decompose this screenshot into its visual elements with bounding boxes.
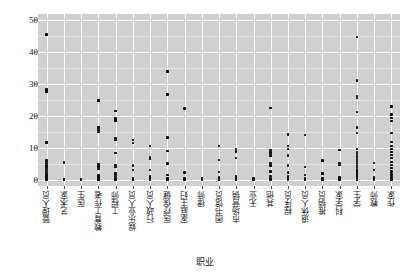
x-axis-tick-mark (357, 186, 358, 189)
data-point (373, 178, 376, 181)
gridline-vertical (254, 14, 255, 186)
x-axis-tick-mark (219, 186, 220, 189)
x-axis-tick-mark (202, 186, 203, 189)
x-axis-tick-label-text: 推销员 (319, 191, 327, 215)
y-axis-tick-label: 20 (4, 111, 38, 120)
x-axis-tick-label: 娱乐业人员 (128, 191, 138, 257)
data-point (338, 164, 341, 167)
data-point (390, 178, 393, 181)
x-axis-tick-mark (254, 186, 255, 189)
gridline-vertical (167, 14, 168, 186)
data-point (218, 178, 221, 181)
x-axis-tick-label: 作家 (386, 191, 396, 257)
x-axis-tick-mark (98, 186, 99, 189)
x-axis-tick-label-text: 律师 (198, 191, 206, 207)
data-point (97, 178, 100, 181)
gridline-vertical (116, 14, 117, 186)
gridline-vertical (150, 14, 151, 186)
data-point (390, 113, 393, 116)
x-axis-tick-label: 教育工作者 (93, 191, 103, 257)
x-axis-tick-label: 家庭主妇 (180, 191, 190, 257)
data-point (183, 107, 186, 110)
gridline-vertical (185, 14, 186, 186)
data-point (114, 152, 117, 155)
gridline-vertical (81, 14, 82, 186)
x-axis-tick-label: 工程师 (111, 191, 121, 257)
x-axis-tick-mark (305, 186, 306, 189)
x-axis-tick-mark (150, 186, 151, 189)
x-axis-tick-label-text: 艺术家 (61, 191, 69, 215)
data-point (114, 139, 117, 142)
gridline-vertical (288, 14, 289, 186)
gridline-vertical (202, 14, 203, 186)
data-point (45, 90, 48, 93)
x-axis-tick-label-text: 工程师 (112, 191, 120, 215)
data-point (287, 164, 290, 167)
x-axis-tick-mark (391, 186, 392, 189)
x-axis-tick-mark (64, 186, 65, 189)
data-point (390, 161, 393, 164)
x-axis-tick-mark (167, 186, 168, 189)
x-axis-tick-label-text: 娱乐业人员 (129, 191, 137, 231)
data-point (390, 132, 393, 135)
data-point (269, 170, 272, 173)
data-point (166, 136, 169, 139)
y-axis-tick-mark (34, 115, 37, 116)
y-axis-tick-mark (34, 52, 37, 53)
x-axis-tick-label-text: 其他 (267, 191, 275, 207)
data-point (97, 99, 100, 102)
data-point (269, 164, 272, 167)
x-axis-label: 职业 (0, 258, 409, 267)
x-axis-tick-label-text: 管理人员 (43, 191, 51, 223)
y-axis-tick-mark (34, 179, 37, 180)
x-axis-tick-label: 管理人员 (42, 191, 52, 257)
x-axis-tick-label: 退休人员 (300, 191, 310, 257)
x-axis-tick-label-text: 科学家 (336, 191, 344, 215)
data-point (390, 145, 393, 148)
y-axis-tick-label: 40 (4, 48, 38, 57)
data-point (97, 168, 100, 171)
x-axis-tick-mark (133, 186, 134, 189)
x-axis-tick-label-text: 程序员 (285, 191, 293, 215)
x-axis-tick-label: 市场营销 (231, 191, 241, 257)
data-point (390, 120, 393, 123)
data-point (183, 171, 186, 174)
x-axis: 管理人员艺术家医生教育工作者工程师娱乐业人员行政人员医疗保健家庭主妇律师图书馆员… (38, 186, 400, 258)
x-axis-tick-label-text: 医生 (78, 191, 86, 207)
x-axis-tick-label: 其他 (266, 191, 276, 257)
x-axis-tick-mark (271, 186, 272, 189)
y-axis-tick-label: 0 (4, 175, 38, 184)
data-point (390, 154, 393, 157)
data-point (183, 178, 186, 181)
y-axis-tick-label: 50 (4, 16, 38, 25)
x-axis-tick-mark (47, 186, 48, 189)
x-axis-tick-label: 教师 (369, 191, 379, 257)
y-axis-tick-label: 30 (4, 80, 38, 89)
data-point (321, 159, 324, 162)
data-point (338, 149, 341, 152)
x-axis-tick-label: 医疗保健 (162, 191, 172, 257)
y-axis-tick-label: 10 (4, 143, 38, 152)
data-point (45, 141, 48, 144)
y-axis-tick-mark (34, 147, 37, 148)
x-axis-tick-label: 图书馆员 (214, 191, 224, 257)
data-point (269, 178, 272, 181)
data-point (356, 126, 359, 129)
x-axis-label-text: 职业 (196, 257, 214, 267)
data-point (321, 178, 324, 181)
x-axis-tick-label-text: 教师 (371, 191, 379, 207)
x-axis-tick-mark (322, 186, 323, 189)
data-point (269, 107, 272, 110)
gridline-vertical (340, 14, 341, 186)
scatter-plot-figure: 权重 01020304050 管理人员艺术家医生教育工作者工程师娱乐业人员行政人… (0, 0, 409, 275)
x-axis-tick-label-text: 教育工作者 (95, 191, 103, 231)
x-axis-tick-mark (185, 186, 186, 189)
x-axis-tick-label-text: 无业 (250, 191, 258, 207)
data-point (166, 70, 169, 73)
x-axis-tick-label-text: 市场营销 (233, 191, 241, 223)
plot-panel (38, 14, 400, 186)
data-point (201, 178, 204, 181)
x-axis-tick-label-text: 行政人员 (147, 191, 155, 223)
x-axis-tick-label-text: 家庭主妇 (181, 191, 189, 223)
data-point (45, 178, 48, 181)
